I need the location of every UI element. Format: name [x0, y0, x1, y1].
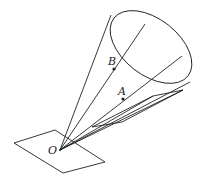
tangent-plane — [92, 90, 183, 127]
label-a: A — [117, 85, 126, 98]
label-b: B — [107, 55, 116, 68]
cone-diagram: B A O — [0, 0, 204, 189]
cone-generator-b — [60, 24, 145, 150]
cone-generator-a — [60, 56, 182, 150]
point-o — [59, 149, 61, 151]
ground-plane — [14, 130, 105, 173]
label-o: O — [48, 144, 57, 157]
cone-edge-left — [60, 15, 111, 150]
cone-generator-lower2 — [60, 96, 153, 150]
